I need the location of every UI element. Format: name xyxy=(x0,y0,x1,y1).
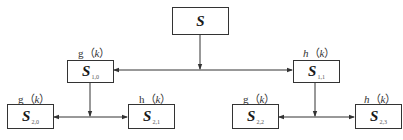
node-root-symbol: S xyxy=(196,14,204,29)
node-s10: S1,0 xyxy=(67,60,114,83)
node-s21: S2,1 xyxy=(128,104,175,129)
node-s11: S1,1 xyxy=(293,60,340,83)
node-s20: S2,0 xyxy=(7,104,54,129)
node-s23: S2,3 xyxy=(355,104,402,129)
node-root: S xyxy=(172,7,229,35)
filter-label-s10: g（k） xyxy=(78,48,110,59)
node-s22: S2,2 xyxy=(232,104,279,129)
filter-label-s11: h（k） xyxy=(303,48,335,59)
